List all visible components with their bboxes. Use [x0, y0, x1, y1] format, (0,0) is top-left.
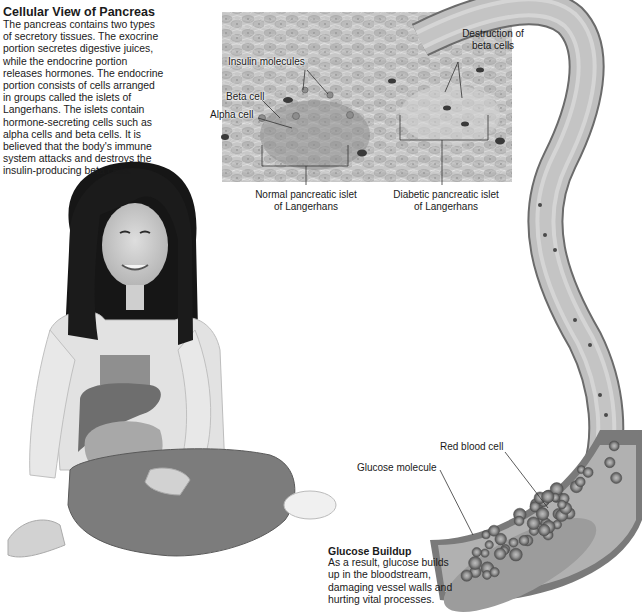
label-destruction-beta-cells: Destruction of beta cells — [448, 28, 538, 51]
description-line: hormone-secreting cells such as — [3, 117, 218, 129]
label-line: beta cells — [448, 40, 538, 52]
label-glucose-molecule: Glucose molecule — [357, 462, 436, 474]
glucose-buildup-block: Glucose Buildup As a result, glucose bui… — [328, 545, 468, 606]
description-line: alpha cells and beta cells. It is — [3, 129, 218, 141]
label-insulin-molecules: Insulin molecules — [228, 56, 305, 68]
red-blood-cell — [527, 517, 540, 530]
red-blood-cell — [494, 548, 506, 560]
label-line: Destruction of — [448, 28, 538, 40]
description-line: portion secretes digestive juices, — [3, 43, 218, 55]
red-blood-cell — [485, 541, 493, 549]
label-line: of Langerhans — [246, 201, 366, 213]
red-blood-cell — [495, 533, 507, 545]
red-blood-cell — [605, 457, 615, 467]
label-line: Diabetic pancreatic islet — [384, 189, 508, 201]
label-red-blood-cell: Red blood cell — [440, 441, 503, 453]
description-line: hurting vital processes. — [328, 594, 468, 606]
red-blood-cell — [509, 538, 518, 547]
description-line: insulin-producing beta cells. — [3, 165, 218, 177]
description-line: As a result, glucose builds — [328, 557, 468, 569]
red-blood-cell — [538, 524, 550, 536]
description-line: The pancreas contains two types — [3, 19, 218, 31]
red-blood-cell — [609, 441, 619, 451]
description-line: of secretory tissues. The exocrine — [3, 31, 218, 43]
red-blood-cell — [519, 535, 529, 545]
label-diabetic-islet: Diabetic pancreatic islet of Langerhans — [384, 189, 508, 212]
label-line: Normal pancreatic islet — [246, 189, 366, 201]
red-blood-cell — [481, 549, 489, 557]
normal-islet — [260, 100, 370, 170]
red-blood-cell — [542, 491, 554, 503]
red-blood-cell — [514, 516, 524, 526]
red-blood-cell — [472, 548, 481, 557]
description-line: while the endocrine portion — [3, 56, 218, 68]
description-line: up in the bloodstream, — [328, 569, 468, 581]
red-blood-cell — [536, 508, 549, 521]
red-blood-cell — [611, 472, 622, 483]
red-blood-cell — [558, 500, 567, 509]
description-line: believed that the body's immune — [3, 141, 218, 153]
cellular-view-description: The pancreas contains two types of secre… — [3, 19, 218, 178]
description-line: Langerhans. The islets contain — [3, 104, 218, 116]
red-blood-cell — [575, 477, 585, 487]
label-beta-cell: Beta cell — [226, 91, 264, 103]
description-line: damaging vessel walls and — [328, 582, 468, 594]
description-line: system attacks and destroys the — [3, 153, 218, 165]
cellular-view-block: Cellular View of Pancreas The pancreas c… — [3, 5, 218, 178]
description-line: portion consists of cells arranged — [3, 80, 218, 92]
cellular-view-title: Cellular View of Pancreas — [3, 5, 218, 19]
label-alpha-cell: Alpha cell — [210, 109, 253, 121]
red-blood-cell — [490, 567, 499, 576]
red-blood-cell — [583, 467, 593, 477]
label-normal-islet: Normal pancreatic islet of Langerhans — [246, 189, 366, 212]
label-line: of Langerhans — [384, 201, 508, 213]
glucose-buildup-description: As a result, glucose builds up in the bl… — [328, 557, 468, 606]
red-blood-cell — [469, 557, 482, 570]
diabetic-islet — [400, 85, 500, 145]
esophagus-stomach — [100, 355, 150, 385]
glucose-buildup-title: Glucose Buildup — [328, 545, 468, 557]
girl-figure — [8, 162, 336, 557]
description-line: in groups called the islets of — [3, 92, 218, 104]
red-blood-cell — [510, 548, 523, 561]
description-line: releases hormones. The endocrine — [3, 68, 218, 80]
